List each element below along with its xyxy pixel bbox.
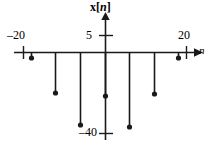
y-axis-title: x[n] bbox=[90, 1, 111, 13]
stem-marker bbox=[176, 55, 181, 60]
plot-canvas bbox=[0, 0, 212, 156]
x-tick-label-neg20: –20 bbox=[7, 29, 25, 41]
y-axis-title-bracket-close: ] bbox=[107, 0, 111, 14]
y-tick-label-5: 5 bbox=[86, 29, 92, 41]
y-tick-label-neg40: –40 bbox=[79, 126, 97, 138]
x-tick-label-pos20: 20 bbox=[178, 29, 190, 41]
y-axis-title-n: n bbox=[100, 0, 107, 14]
x-axis-title: n bbox=[199, 45, 205, 56]
stem-marker bbox=[53, 90, 58, 95]
stem-marker bbox=[152, 91, 157, 96]
stem-marker bbox=[29, 55, 34, 60]
x-axis bbox=[14, 48, 203, 56]
stem-marker bbox=[127, 124, 132, 129]
stem-plot-figure: –20 20 5 –40 x[n] n bbox=[0, 0, 212, 156]
stem-marker bbox=[103, 93, 108, 98]
